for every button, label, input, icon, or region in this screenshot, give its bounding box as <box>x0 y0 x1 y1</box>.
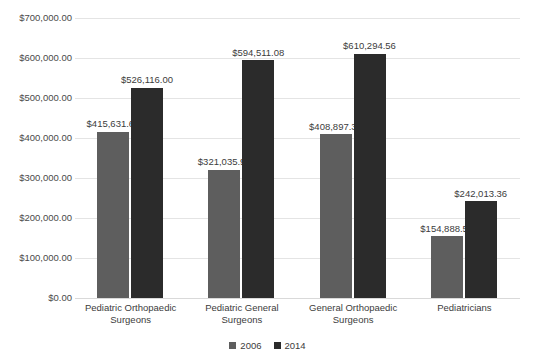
legend-swatch-icon <box>229 342 236 349</box>
x-axis-tick-label: General OrthopaedicSurgeons <box>298 302 409 326</box>
y-axis-tick-label: $0.00 <box>0 293 72 303</box>
x-axis-tick-label-line: General Orthopaedic <box>298 302 409 314</box>
y-axis-tick-label: $700,000.00 <box>0 13 72 23</box>
y-axis-tick-label: $200,000.00 <box>0 213 72 223</box>
y-axis-tick-label: $400,000.00 <box>0 133 72 143</box>
legend-label: 2006 <box>240 341 261 351</box>
axis-baseline <box>75 298 520 299</box>
bar-value-label: $594,511.08 <box>232 48 284 58</box>
y-axis-tick-label: $100,000.00 <box>0 253 72 263</box>
legend-swatch-icon <box>274 342 281 349</box>
bar-2006: $415,631.64 <box>97 132 129 298</box>
x-axis-tick-label-line: Pediatric Orthopaedic <box>75 302 186 314</box>
x-axis-tick-label: Pediatric OrthopaedicSurgeons <box>75 302 186 326</box>
bar-2014: $594,511.08 <box>242 60 274 298</box>
bar-2014: $242,013.36 <box>465 201 497 298</box>
bar-2006: $408,897.36 <box>320 134 352 298</box>
bar-value-label: $242,013.36 <box>454 189 507 199</box>
legend-label: 2014 <box>285 341 306 351</box>
bar-group: $154,888.55$242,013.36 <box>409 18 520 298</box>
bar-group: $415,631.64$526,116.00 <box>75 18 186 298</box>
y-axis: $700,000.00$600,000.00$500,000.00$400,00… <box>0 18 72 298</box>
chart-legend: 20062014 <box>0 341 535 351</box>
legend-item-2014[interactable]: 2014 <box>274 341 306 351</box>
y-axis-tick-label: $600,000.00 <box>0 53 72 63</box>
bar-group: $321,035.98$594,511.08 <box>186 18 297 298</box>
plot-area: $415,631.64$526,116.00$321,035.98$594,51… <box>75 18 520 298</box>
bar-value-label: $610,294.56 <box>343 41 396 51</box>
x-axis-category-labels: Pediatric OrthopaedicSurgeonsPediatric G… <box>75 302 520 336</box>
x-axis-tick-label-line: Surgeons <box>186 314 297 326</box>
bar-2006: $154,888.55 <box>431 236 463 298</box>
y-axis-tick-label: $500,000.00 <box>0 93 72 103</box>
x-axis-tick-label-line: Surgeons <box>75 314 186 326</box>
x-axis-tick-label: Pediatricians <box>409 302 520 314</box>
x-axis-tick-label-line: Pediatricians <box>409 302 520 314</box>
y-axis-tick-label: $300,000.00 <box>0 173 72 183</box>
x-axis-tick-label-line: Pediatric General <box>186 302 297 314</box>
legend-item-2006[interactable]: 2006 <box>229 341 261 351</box>
bar-group: $408,897.36$610,294.56 <box>298 18 409 298</box>
bar-2006: $321,035.98 <box>208 170 240 298</box>
bar-2014: $526,116.00 <box>131 88 163 298</box>
bar-value-label: $526,116.00 <box>121 75 173 85</box>
x-axis-tick-label-line: Surgeons <box>298 314 409 326</box>
x-axis-tick-label: Pediatric GeneralSurgeons <box>186 302 297 326</box>
bar-2014: $610,294.56 <box>354 54 386 298</box>
bar-chart: $700,000.00$600,000.00$500,000.00$400,00… <box>0 0 535 361</box>
